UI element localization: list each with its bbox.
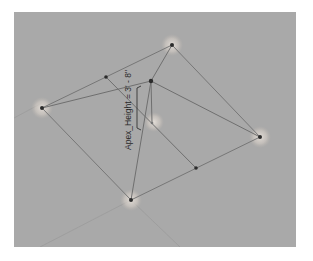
vertex-bottom — [129, 198, 133, 202]
pyramid-diagram: Apex_Height = 3' - 8" — [14, 12, 296, 247]
3d-model-viewport[interactable]: Apex_Height = 3' - 8" — [14, 12, 296, 247]
apex-point — [149, 79, 153, 83]
vertex-left — [40, 106, 44, 110]
apex-height-label[interactable]: Apex_Height = 3' - 8" — [123, 70, 133, 150]
midpoint-1 — [104, 75, 108, 79]
vertex-top — [170, 43, 174, 47]
midpoint-2 — [194, 166, 198, 170]
vertex-right — [258, 135, 262, 139]
vertex-points[interactable] — [40, 43, 262, 202]
base-center-point — [151, 122, 154, 125]
dimension-bracket — [137, 86, 141, 130]
